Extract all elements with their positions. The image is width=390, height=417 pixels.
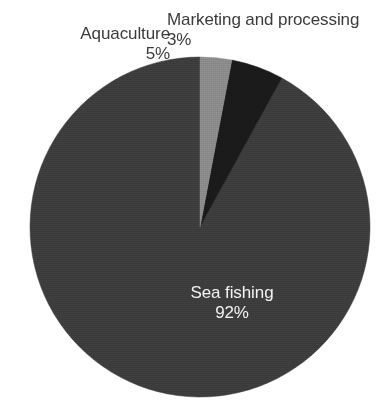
- slice-label-sea-fishing: Sea fishing 92%: [172, 283, 292, 323]
- slice-label-sea-fishing-name: Sea fishing: [190, 283, 273, 302]
- slice-label-aquaculture: Aquaculture 5%: [10, 24, 170, 64]
- slice-label-marketing-and-processing: Marketing and processing 3%: [167, 10, 359, 50]
- slice-label-aquaculture-name: Aquaculture: [80, 24, 170, 43]
- pie-slice-group: [30, 57, 370, 397]
- slice-label-aquaculture-value: 5%: [10, 44, 170, 64]
- slice-label-marketing-and-processing-value: 3%: [167, 30, 359, 50]
- slice-label-sea-fishing-value: 92%: [172, 303, 292, 323]
- slice-label-marketing-and-processing-name: Marketing and processing: [167, 10, 359, 29]
- pie-chart: Aquaculture 5% Marketing and processing …: [0, 0, 390, 417]
